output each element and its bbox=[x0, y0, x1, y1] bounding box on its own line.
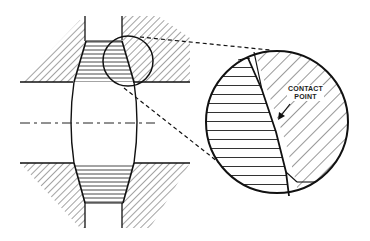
magnified-detail bbox=[200, 45, 360, 205]
label-line-2: POINT bbox=[288, 93, 323, 101]
upper-left-housing bbox=[20, 16, 85, 82]
lower-contact-zone bbox=[74, 163, 134, 203]
upper-right-housing bbox=[122, 16, 190, 82]
label-line-1: CONTACT bbox=[288, 85, 323, 93]
contact-point-diagram bbox=[0, 0, 370, 241]
lower-right-housing bbox=[122, 163, 190, 228]
contact-point-label: CONTACT POINT bbox=[287, 85, 324, 101]
lower-left-housing bbox=[20, 163, 85, 228]
